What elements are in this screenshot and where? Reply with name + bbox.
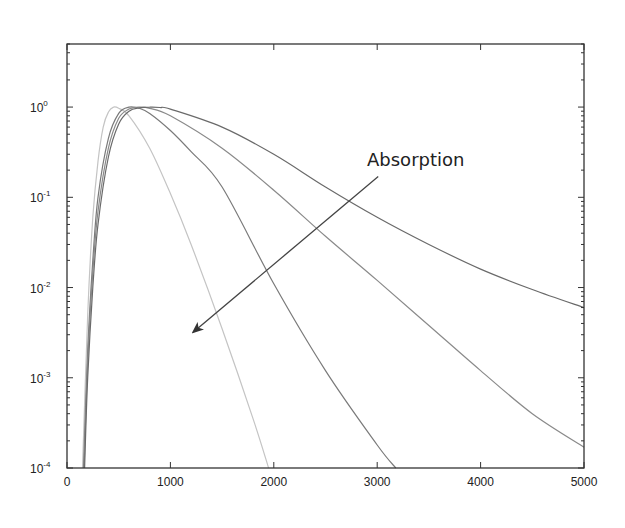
absorption-annotation: Absorption	[193, 149, 464, 332]
x-tick-label: 5000	[571, 475, 598, 489]
curves	[83, 107, 585, 468]
x-tick-label: 4000	[467, 475, 494, 489]
series-line-3	[84, 107, 584, 468]
x-tick-label: 1000	[157, 475, 184, 489]
log-plot: 01000200030004000500010-410-310-210-1100…	[0, 0, 625, 528]
x-tick-label: 3000	[364, 475, 391, 489]
y-tick-label: 100	[30, 99, 48, 115]
x-tick-label: 2000	[260, 475, 287, 489]
y-tick-label: 10-3	[30, 370, 51, 386]
y-tick-label: 10-1	[30, 189, 51, 205]
series-line-4	[85, 107, 584, 468]
tick-labels: 01000200030004000500010-410-310-210-1100	[30, 99, 598, 489]
absorption-label: Absorption	[367, 149, 464, 170]
y-tick-label: 10-2	[30, 280, 51, 296]
y-tick-label: 10-4	[30, 460, 51, 476]
x-tick-label: 0	[64, 475, 71, 489]
series-line-1	[83, 107, 269, 468]
